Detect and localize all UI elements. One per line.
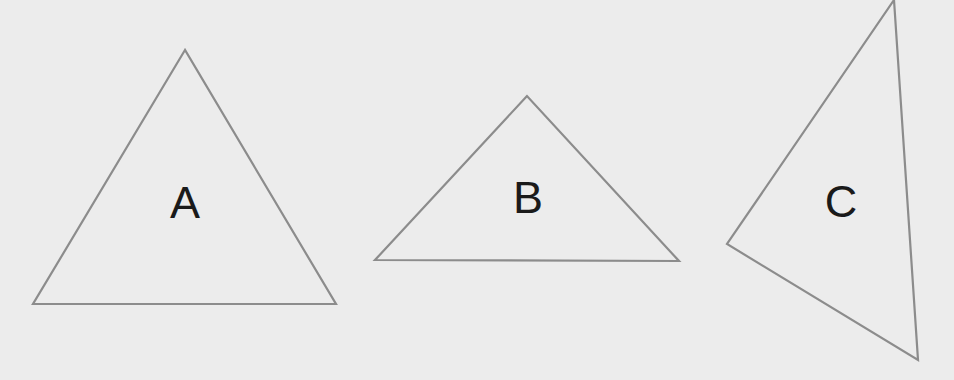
triangle-b-label: B: [513, 172, 543, 223]
triangle-b: B: [375, 96, 679, 261]
triangle-a: A: [33, 50, 336, 304]
diagram-canvas: A B C: [0, 0, 954, 380]
triangles-diagram: A B C: [0, 0, 954, 380]
triangle-c: C: [727, 0, 918, 360]
triangle-a-label: A: [170, 177, 200, 228]
triangle-c-label: C: [825, 176, 858, 227]
triangle-c-outline: [727, 0, 918, 360]
